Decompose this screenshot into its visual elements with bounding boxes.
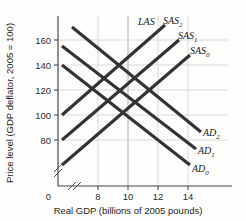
y-tick-label-80: 80 (40, 135, 51, 146)
x-axis-title: Real GDP (billions of 2005 pounds) (54, 205, 203, 216)
y-tick-label-160: 160 (35, 35, 51, 46)
x-tick-labels: 8 10 12 14 (95, 191, 193, 202)
y-tick-label-120: 120 (35, 85, 51, 96)
curve-label-ad0: AD0 (191, 163, 209, 177)
curve-label-ad1: AD1 (197, 145, 215, 159)
curve-label-sas0: SAS0 (190, 45, 210, 59)
curve-label-sas2: SAS2 (163, 15, 183, 29)
y-axis-title: Price level (GDP deflator, 2005 = 100) (4, 23, 15, 183)
y-tick-label-100: 100 (35, 110, 51, 121)
chart-figure: 160 140 120 100 80 8 10 12 14 0 Real GDP… (0, 0, 246, 221)
aggregate-supply-demand-chart: 160 140 120 100 80 8 10 12 14 0 Real GDP… (0, 0, 246, 221)
origin-label: 0 (46, 191, 51, 202)
x-tick-label-14: 14 (183, 191, 194, 202)
y-tick-labels: 160 140 120 100 80 (35, 35, 51, 146)
x-tick-label-12: 12 (153, 191, 164, 202)
curve-sas2 (62, 25, 165, 115)
x-tick-label-10: 10 (123, 191, 134, 202)
vertical-gridlines (98, 16, 188, 186)
y-tick-label-140: 140 (35, 60, 51, 71)
curve-label-ad2: AD2 (202, 127, 220, 141)
x-tick-label-8: 8 (95, 191, 100, 202)
x-tick-marks (98, 186, 188, 190)
curve-label-las: LAS (137, 16, 155, 27)
